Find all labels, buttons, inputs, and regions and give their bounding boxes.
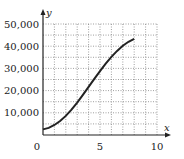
x-tick-label: 5 [97,141,103,152]
grid [43,24,157,135]
x-axis-arrow-icon [165,133,171,138]
x-tick-label: 0 [34,141,40,152]
x-tick-label: 10 [151,141,164,152]
chart: 10,00020,00030,00040,00050,0000510 x y [0,0,184,159]
y-axis-arrow-icon [41,9,46,15]
y-tick-label: 10,000 [4,107,39,118]
y-axis-label: y [45,7,52,18]
x-axis-label: x [164,122,170,133]
y-tick-label: 30,000 [4,63,39,74]
y-tick-label: 40,000 [4,41,39,52]
tick-labels: 10,00020,00030,00040,00050,0000510 [4,19,163,153]
axes [41,9,172,138]
y-tick-label: 20,000 [4,85,39,96]
y-tick-label: 50,000 [4,19,39,30]
